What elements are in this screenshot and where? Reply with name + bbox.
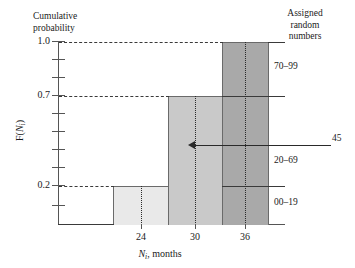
y-axis-title-var: N: [14, 125, 25, 132]
y-tick-minor-3: [52, 113, 65, 114]
x-axis-title-rest: , months: [147, 248, 181, 259]
y-tick-label-1: 1.0: [24, 35, 50, 46]
annotation-value-45: 45: [332, 133, 342, 143]
guide-line-0p2: [59, 186, 114, 187]
x-tick-30: [195, 224, 196, 229]
annotation-arrow-head: [188, 141, 195, 149]
band-separator-top: [268, 42, 285, 43]
range-label-70-99: 70–99: [274, 61, 298, 71]
x-tick-label-36: 36: [230, 231, 260, 242]
y-axis-title-open: (: [14, 132, 25, 135]
y-tick-minor-5: [52, 149, 65, 150]
bar-center-dotted-36: [245, 42, 246, 225]
step-baseline-segment: [58, 224, 114, 225]
chart-figure: Cumulative probability Assigned random n…: [0, 0, 355, 268]
x-tick-label-24: 24: [126, 231, 156, 242]
y-tick-minor-7: [52, 205, 65, 206]
guide-line-0p7: [59, 96, 169, 97]
assigned-random-numbers-caption: Assigned random numbers: [262, 8, 348, 43]
y-axis-title-f: F: [14, 135, 25, 141]
bar-center-dotted-24: [141, 186, 142, 225]
y-tick-label-2: 0.7: [24, 89, 50, 100]
guide-line-1p0: [59, 42, 223, 43]
y-tick-minor-6: [52, 167, 65, 168]
range-label-00-19: 00–19: [274, 197, 298, 207]
bar-center-dotted-30: [195, 96, 196, 225]
y-tick-minor-4: [52, 131, 65, 132]
x-tick-36: [245, 224, 246, 229]
x-tick-24: [141, 224, 142, 229]
band-separator-0p7: [222, 96, 285, 97]
y-axis-line: [58, 41, 59, 225]
band-separator-0p2: [222, 186, 285, 187]
cumulative-probability-caption: Cumulative probability: [33, 11, 77, 34]
range-label-20-69: 20–69: [274, 155, 298, 165]
y-tick-minor-2: [52, 77, 65, 78]
annotation-arrow-line: [193, 145, 331, 146]
y-axis-title-close: ): [14, 120, 25, 123]
x-tick-label-30: 30: [180, 231, 210, 242]
y-tick-minor-1: [52, 59, 65, 60]
x-axis-title: Ni, months: [95, 248, 225, 261]
y-tick-label-3: 0.2: [24, 179, 50, 190]
y-axis-title: F(Ni): [14, 101, 27, 161]
y-axis-title-sub: i: [18, 123, 27, 125]
